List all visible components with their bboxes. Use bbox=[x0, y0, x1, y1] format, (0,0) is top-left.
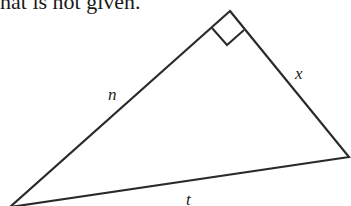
triangle-outline bbox=[10, 11, 349, 206]
right-angle-marker bbox=[212, 28, 244, 45]
right-triangle-diagram: n x t bbox=[0, 0, 351, 206]
label-x: x bbox=[294, 64, 303, 83]
label-t: t bbox=[186, 190, 192, 206]
label-n: n bbox=[108, 85, 117, 104]
